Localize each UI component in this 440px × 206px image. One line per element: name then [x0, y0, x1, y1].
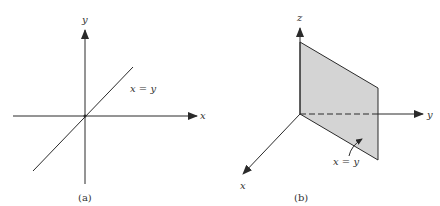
origin-point-a: [84, 115, 87, 118]
x-axis-label-b: x: [240, 180, 246, 191]
y-axis-label-a: y: [81, 14, 88, 25]
figure-a: x y x = y (a): [13, 14, 206, 203]
caption-a: (a): [78, 192, 92, 203]
plane-label-b: x = y: [333, 156, 359, 167]
y-axis-label-b: y: [426, 109, 433, 120]
caption-b: (b): [294, 192, 308, 203]
line-x-equals-y: [33, 67, 133, 171]
plane-x-equals-y: [300, 42, 378, 160]
z-axis-label-b: z: [296, 12, 303, 23]
figure-b: z y x x = y (b): [240, 12, 433, 203]
diagram-canvas: x y x = y (a) z y x x = y (b): [0, 0, 440, 206]
x-axis-label-a: x: [200, 110, 206, 121]
x-axis-b: [243, 114, 300, 174]
line-label-a: x = y: [130, 83, 156, 94]
